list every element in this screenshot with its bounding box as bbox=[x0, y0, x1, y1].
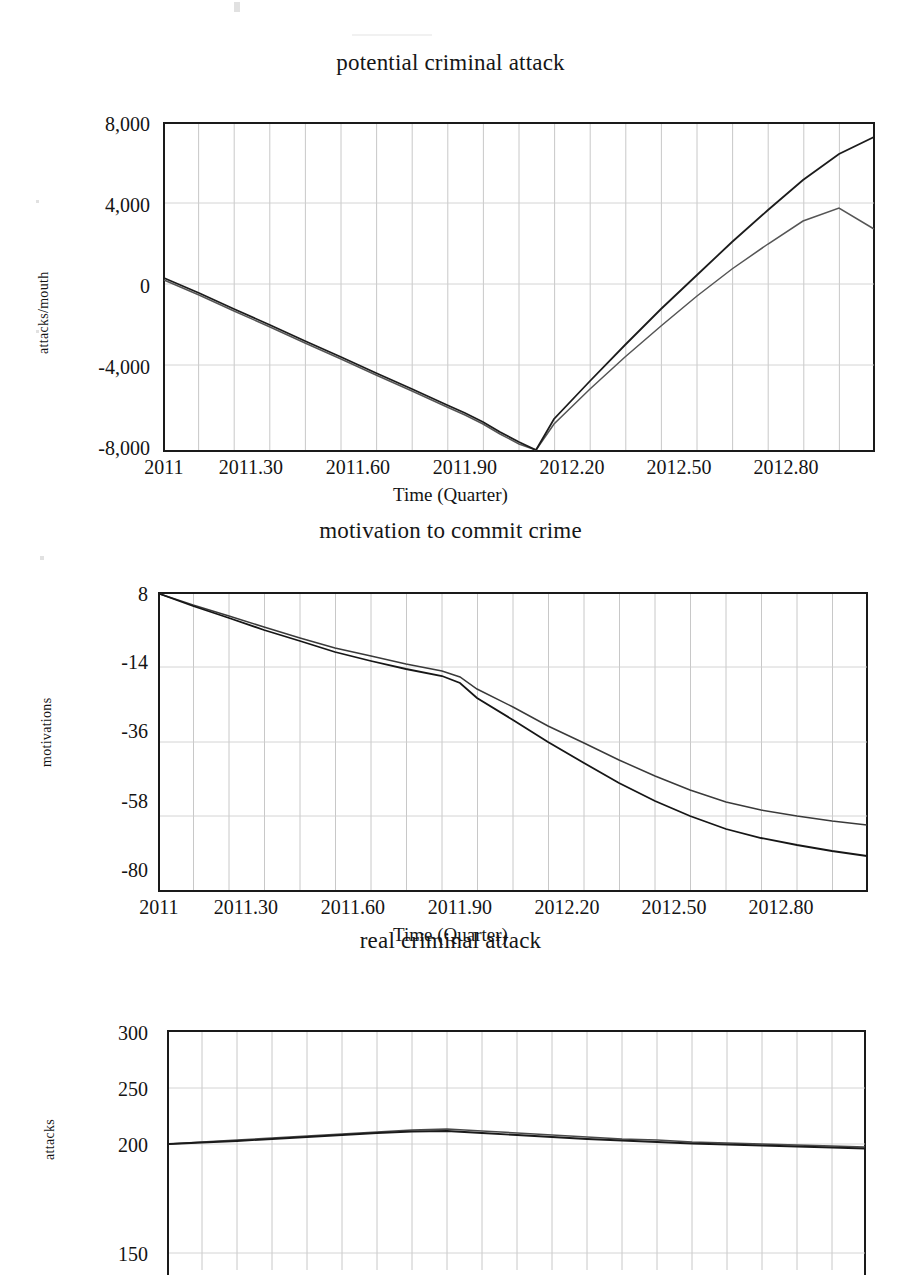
y-tick-label: 0 bbox=[40, 276, 150, 296]
x-tick-label: 2011.30 bbox=[191, 897, 301, 917]
y-axis-title: motivations bbox=[39, 657, 55, 767]
x-tick-label: 2012.80 bbox=[731, 457, 841, 477]
chart-title: potential criminal attack bbox=[0, 50, 901, 76]
y-tick-label: 200 bbox=[40, 1135, 148, 1155]
chart-motivation-to-commit-crime: motivation to commit crime motivations 8… bbox=[0, 518, 901, 958]
y-tick-label: 250 bbox=[40, 1079, 148, 1099]
plot-frame bbox=[158, 592, 868, 892]
x-tick-label: 2012.80 bbox=[726, 897, 836, 917]
x-tick-label: 2012.20 bbox=[512, 897, 622, 917]
y-tick-label: 4,000 bbox=[40, 195, 150, 215]
chart-potential-criminal-attack: potential criminal attack attacks/mouth … bbox=[0, 50, 901, 505]
x-axis-title: Time (Quarter) bbox=[0, 484, 901, 506]
x-tick-label: 2012.50 bbox=[619, 897, 729, 917]
chart-title: real criminal attack bbox=[0, 928, 901, 954]
x-tick-label: 2011.60 bbox=[303, 457, 413, 477]
y-tick-label: -58 bbox=[40, 791, 148, 811]
x-tick-label: 2011.60 bbox=[298, 897, 408, 917]
x-tick-label: 2011.30 bbox=[196, 457, 306, 477]
y-tick-label: -8,000 bbox=[40, 438, 150, 458]
y-tick-label: -4,000 bbox=[40, 357, 150, 377]
chart-title: motivation to commit crime bbox=[0, 518, 901, 544]
y-tick-label: 300 bbox=[40, 1023, 148, 1043]
y-tick-label: 8 bbox=[40, 584, 148, 604]
y-tick-label: 8,000 bbox=[40, 114, 150, 134]
y-tick-label: -36 bbox=[40, 721, 148, 741]
scan-speck bbox=[234, 2, 240, 12]
plot-frame bbox=[167, 1030, 866, 1275]
x-tick-label: 2012.50 bbox=[624, 457, 734, 477]
x-tick-label: 2011.90 bbox=[410, 457, 520, 477]
y-tick-label: 150 bbox=[40, 1244, 148, 1264]
scan-speck bbox=[352, 34, 432, 36]
chart-real-criminal-attack: real criminal attack attacks 300 250 200… bbox=[0, 928, 901, 1244]
x-tick-label: 2012.20 bbox=[517, 457, 627, 477]
x-tick-label: 2011 bbox=[124, 457, 204, 477]
x-tick-label: 2011 bbox=[119, 897, 199, 917]
plot-frame bbox=[163, 122, 875, 452]
y-tick-label: -80 bbox=[40, 860, 148, 880]
x-tick-label: 2011.90 bbox=[405, 897, 515, 917]
y-tick-label: -14 bbox=[40, 652, 148, 672]
